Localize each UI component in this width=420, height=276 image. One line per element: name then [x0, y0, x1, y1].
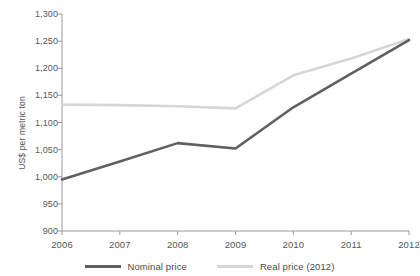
legend-label: Nominal price	[128, 261, 187, 272]
legend-line-swatch	[217, 265, 253, 268]
legend-line-swatch	[85, 265, 121, 268]
x-axis-tick-label: 2009	[225, 239, 247, 250]
y-axis-tick-label: 1,200	[24, 63, 58, 73]
y-axis-tick-label: 950	[24, 199, 58, 209]
legend-item[interactable]: Real price (2012)	[217, 261, 335, 272]
y-axis-tick-label: 1,000	[24, 172, 58, 182]
series-lines	[62, 39, 409, 180]
y-axis-tick-label: 1,100	[24, 118, 58, 128]
y-axis-tick-label: 1,250	[24, 36, 58, 46]
legend-label: Real price (2012)	[260, 261, 335, 272]
x-axis-tick-label: 2012	[398, 239, 420, 250]
axis-lines	[62, 14, 409, 231]
y-axis-tick-labels: 9009501,0001,0501,1001,1501,2001,2501,30…	[12, 0, 58, 276]
x-axis-tick-label: 2010	[283, 239, 305, 250]
axis-tick-marks	[58, 14, 409, 235]
x-axis-tick-label: 2008	[167, 239, 189, 250]
y-axis-tick-label: 1,050	[24, 145, 58, 155]
legend-item[interactable]: Nominal price	[85, 261, 187, 272]
y-axis-tick-label: 900	[24, 226, 58, 236]
x-axis-tick-label: 2011	[341, 239, 362, 250]
x-axis-tick-label: 2006	[51, 239, 73, 250]
y-axis-tick-label: 1,300	[24, 9, 58, 19]
y-axis-tick-label: 1,150	[24, 90, 58, 100]
chart-legend: Nominal priceReal price (2012)	[0, 261, 419, 272]
x-axis-tick-label: 2007	[109, 239, 131, 250]
